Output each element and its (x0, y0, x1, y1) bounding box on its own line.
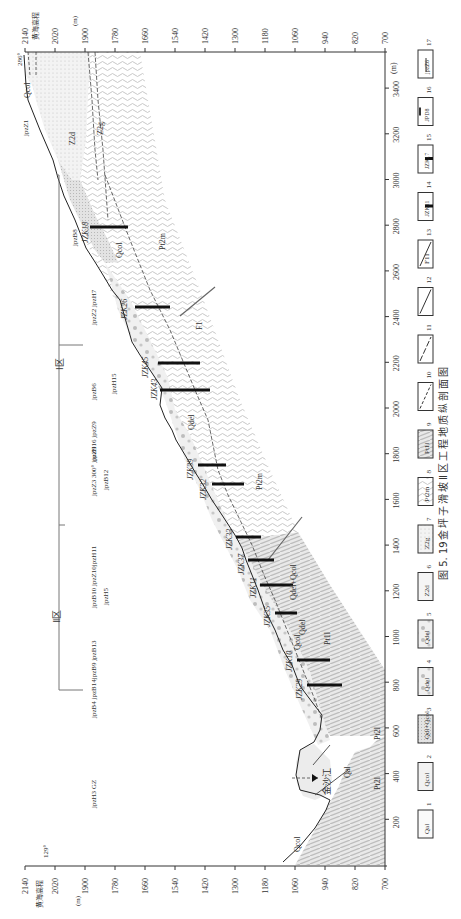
legend-item: JZK1114 (418, 181, 433, 221)
distance-tick-label: 600 (392, 725, 401, 737)
distance-tick-label: 1200 (392, 584, 401, 600)
legend-item: Z2g7 (418, 517, 433, 553)
legend-item: 10 (418, 371, 433, 411)
legend-number: 12 (425, 276, 433, 284)
figure-number: 图 5. 19 (438, 541, 449, 580)
elevation-axis-label-top: 黄海高程 (31, 12, 40, 40)
legend-number: 15 (425, 134, 433, 142)
legend-item: jpzZ617 (418, 39, 433, 79)
legend-item: Qdel5 (418, 612, 433, 648)
borehole-label: JZK37 (237, 553, 246, 575)
legend-swatch-label: F11 (423, 253, 431, 264)
elevation-tick-label: 1660 (141, 28, 150, 44)
station-label: jpzB10 jpzZ10jpzH11 (90, 545, 98, 609)
borehole-label: JZK29 (295, 679, 304, 700)
distance-tick-label: 400 (392, 771, 401, 783)
legend-swatch-label: JZK11 (424, 200, 430, 216)
station-label: jpzB8 (71, 229, 79, 247)
stratum-label: Qcol (293, 634, 302, 650)
station-label: jpzB12 (102, 469, 110, 491)
station-label: jpzB4 jpzB14jpzB9 jpzB13 (90, 640, 98, 719)
legend-item: JPD816 (418, 86, 433, 126)
legend-item: F1113 (418, 229, 433, 269)
legend-number: 6 (425, 565, 433, 569)
legend-swatch (418, 383, 433, 411)
legend-number: 11 (425, 324, 433, 331)
distance-tick-label: 800 (392, 679, 401, 691)
distance-tick-label: 2200 (392, 355, 401, 371)
station-label: jpzB6 (90, 383, 98, 401)
legend-swatch-label: JZK17 (424, 153, 430, 169)
borehole-label: JZK26 (120, 299, 129, 320)
stratum-label: Pt1l (323, 631, 332, 645)
legend-number: 13 (425, 229, 433, 237)
elevation-tick-label: 820 (351, 878, 360, 890)
elevation-tick-label: 1300 (231, 28, 240, 44)
elevation-unit-top: (m) (71, 15, 79, 26)
distance-tick-label: 3400 (392, 81, 401, 97)
legend-number: 10 (425, 371, 433, 379)
legend-item: Z2d6 (418, 565, 433, 601)
elevation-axis-label-bottom: 黄海高程 (35, 880, 44, 908)
distance-tick-label: 200 (392, 816, 401, 828)
elevation-tick-label: 1660 (141, 878, 150, 894)
stratum-label: Qcol (23, 82, 32, 98)
elevation-tick-label: 2140 (21, 28, 30, 44)
elevation-tick-label: 1180 (261, 28, 270, 44)
elevation-tick-label: 2020 (51, 28, 60, 44)
stratum-label: Z2g (96, 122, 105, 135)
distance-tick-label: 3000 (392, 173, 401, 189)
elevation-tick-label: 1900 (81, 878, 90, 894)
elevation-unit-bottom: (m) (74, 895, 82, 906)
elevation-tick-label: 1900 (81, 28, 90, 44)
elevation-tick-label: 940 (321, 32, 330, 44)
legend-swatch-label: Qdel (423, 630, 431, 644)
station-label: jpzH15 (110, 373, 118, 395)
elevation-tick-label: 1420 (201, 28, 210, 44)
legend-item: Qcol2 (418, 755, 433, 791)
legend-number: 8 (425, 470, 433, 474)
elevation-tick-label: 700 (381, 878, 390, 890)
station-label: jpzZ2 jpzH7 (90, 289, 98, 326)
legend-number: 14 (425, 181, 433, 189)
legend-number: 5 (425, 612, 433, 616)
elevation-tick-label: 700 (381, 32, 390, 44)
elevation-tick-label: 1540 (171, 878, 180, 894)
legend-swatch-label: JPD8 (424, 108, 430, 121)
legend-number: 4 (425, 660, 433, 664)
stratum-label: Qdel (187, 414, 196, 430)
legend-item: 12 (418, 276, 433, 316)
borehole-label: JZK43 (150, 379, 159, 400)
elevation-tick-label: 1780 (111, 28, 120, 44)
legend-item: JZK1715 (418, 134, 433, 174)
distance-tick-label: 2000 (392, 401, 401, 417)
stratum-label: Qal (343, 766, 352, 778)
distance-unit: (m) (389, 62, 398, 74)
distance-tick-label: 2400 (392, 310, 401, 326)
left-top-bearing: 129° (42, 845, 50, 859)
borehole-label: JZK33 (225, 529, 234, 550)
elevation-tick-label: 1420 (201, 878, 210, 894)
legend-item: Pt2m8 (418, 470, 433, 506)
borehole-label: JZK10 (285, 651, 294, 672)
stratum-label: Pt2l (373, 776, 382, 790)
legend-number: 16 (425, 86, 433, 94)
elevation-tick-label: 820 (351, 32, 360, 44)
distance-tick-label: 1000 (392, 630, 401, 646)
legend-swatch-label: Pt2m (423, 486, 431, 501)
borehole-label: JZK32 (199, 479, 208, 500)
legend-swatch-label: Qdl+Qcol (423, 711, 431, 739)
stratum-label: Pt2l (373, 726, 382, 740)
station-label: jpzZ1 (22, 119, 30, 137)
stratum-label: Qcol (293, 836, 302, 852)
legend-swatch-label: Qal (423, 824, 431, 834)
elevation-tick-label: 2020 (51, 878, 60, 894)
legend-number: 9 (425, 422, 433, 426)
station-label: jpzH16 jpzZ9 (90, 421, 98, 461)
geology-section (25, 52, 385, 865)
legend: Qal1Qcol2Qdl+Qcol3Qdel4Qdel5Z2d6Z2g7Pt2m… (418, 39, 433, 839)
distance-tick-label: 2600 (392, 264, 401, 280)
legend-item: Qdl+Qcol3 (418, 707, 433, 743)
elevation-tick-label: 2140 (21, 878, 30, 894)
distance-tick-label: 1800 (392, 447, 401, 463)
